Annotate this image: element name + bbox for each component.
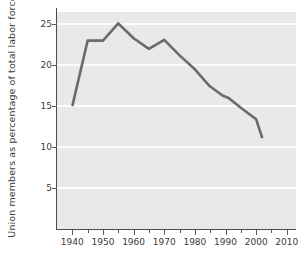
x-minor-tick-1975 — [180, 230, 181, 233]
plot-area — [57, 12, 296, 229]
y-tick-label-5: 5 — [34, 183, 52, 193]
y-tick-label-15: 15 — [34, 101, 52, 111]
x-tick-mark-2000 — [256, 230, 257, 235]
x-minor-tick-1995 — [241, 230, 242, 233]
x-minor-tick-1965 — [149, 230, 150, 233]
y-tick-label-20: 20 — [34, 60, 52, 70]
x-tick-mark-2010 — [287, 230, 288, 235]
x-minor-tick-2005 — [271, 230, 272, 233]
y-axis-label: Union members as percentage of total lab… — [6, 0, 17, 237]
line-series-union-membership — [57, 12, 296, 229]
y-tick-label-25: 25 — [34, 19, 52, 29]
x-tick-mark-1980 — [195, 230, 196, 235]
x-tick-mark-1940 — [72, 230, 73, 235]
y-axis-tick-labels: 510152025 — [22, 0, 52, 262]
x-tick-label-2010: 2010 — [267, 237, 307, 247]
x-tick-mark-1960 — [134, 230, 135, 235]
x-axis-spine — [56, 229, 296, 230]
chart-figure: Union members as percentage of total lab… — [0, 0, 308, 262]
y-tick-label-10: 10 — [34, 142, 52, 152]
x-tick-mark-1990 — [226, 230, 227, 235]
x-minor-tick-1955 — [118, 230, 119, 233]
x-tick-mark-1950 — [103, 230, 104, 235]
x-minor-tick-1945 — [88, 230, 89, 233]
x-minor-tick-1985 — [210, 230, 211, 233]
y-axis-label-container: Union members as percentage of total lab… — [0, 0, 22, 232]
x-tick-mark-1970 — [164, 230, 165, 235]
